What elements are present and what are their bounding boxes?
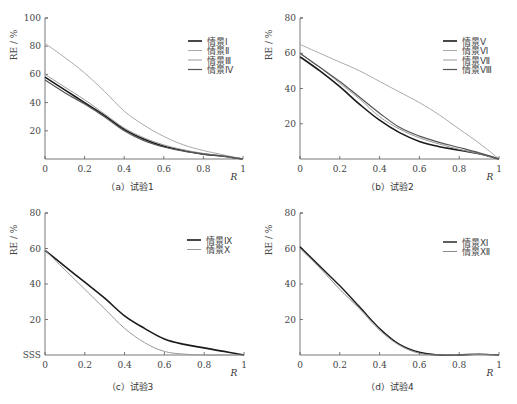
legend-label: 情景Ⅱ — [207, 45, 229, 56]
legend-label: 情景Ⅲ — [207, 55, 231, 66]
x-tick-label: 0.6 — [157, 164, 172, 174]
legend: 情景Ⅰ情景Ⅱ情景Ⅲ情景Ⅳ — [188, 36, 234, 76]
x-tick-label: 0.4 — [372, 360, 387, 370]
y-tick-label: 40 — [285, 279, 297, 289]
x-tick-label: 0.2 — [78, 360, 92, 370]
y-tick-label: 20 — [285, 315, 297, 325]
legend-label: 情景Ⅳ — [207, 64, 234, 75]
x-tick-label: 1 — [240, 164, 246, 174]
series-line-1 — [300, 247, 499, 356]
y-axis-label: RE / % — [264, 224, 274, 255]
x-tick-label: 0 — [297, 360, 303, 370]
series-line-4 — [45, 80, 243, 159]
chart-panel-c: SSS2040608000.20.40.60.81RE / %R（c）试验3情景… — [9, 208, 247, 392]
y-tick-label: 20 — [285, 119, 297, 129]
x-tick-label: 0.2 — [333, 360, 347, 370]
y-tick-label: 60 — [30, 244, 42, 254]
x-tick-label: 1 — [496, 164, 502, 174]
x-tick-label: 0.6 — [157, 360, 172, 370]
legend-label: 情景Ⅰ — [207, 36, 228, 47]
y-tick-label: 80 — [285, 13, 297, 23]
series-line-2 — [300, 249, 499, 356]
series-line-3 — [45, 74, 243, 159]
y-tick-label: 40 — [30, 279, 42, 289]
y-tick-label: 40 — [285, 84, 297, 94]
legend-label: 情景Ⅷ — [462, 64, 492, 75]
x-tick-label: 0.4 — [372, 164, 387, 174]
series-line-1 — [45, 250, 244, 355]
legend-label: 情景Ⅴ — [462, 36, 487, 47]
y-tick-label: 40 — [30, 98, 42, 108]
legend: 情景Ⅴ情景Ⅵ情景Ⅶ情景Ⅷ — [443, 36, 492, 76]
y-tick-label: 20 — [30, 315, 42, 325]
x-tick-label: 0.4 — [117, 164, 132, 174]
chart-panel-b: 2040608000.20.40.60.81RE / %R（b）试验2情景Ⅴ情景… — [264, 13, 502, 192]
x-tick-label: 0.8 — [196, 164, 211, 174]
y-axis-label: RE / % — [264, 29, 274, 60]
panel-caption: （b）试验2 — [366, 181, 413, 192]
y-tick-label: 60 — [30, 69, 42, 79]
x-axis-label: R — [486, 368, 494, 378]
chart-panel-d: 2040608000.20.40.60.81RE / %R（d）试验4情景Ⅺ情景… — [264, 208, 502, 392]
x-tick-label: 1 — [496, 360, 502, 370]
legend: 情景Ⅸ情景Ⅹ — [187, 235, 232, 256]
x-tick-label: 0 — [42, 164, 48, 174]
y-tick-label: SSS — [23, 350, 41, 360]
x-tick-label: 0.8 — [452, 360, 467, 370]
legend-label: 情景Ⅶ — [462, 55, 490, 66]
y-tick-label: 80 — [285, 208, 297, 218]
legend-label: 情景Ⅺ — [462, 237, 488, 248]
panel-caption: （a）试验1 — [106, 181, 153, 192]
legend-label: 情景Ⅹ — [206, 244, 230, 255]
y-tick-label: 80 — [30, 41, 42, 51]
y-tick-label: 20 — [30, 126, 42, 136]
panel-caption: （c）试验3 — [107, 381, 154, 392]
legend-label: 情景Ⅵ — [462, 45, 488, 56]
x-tick-label: 0.6 — [412, 164, 427, 174]
series-line-1 — [45, 77, 243, 159]
x-axis-label: R — [230, 172, 238, 182]
x-tick-label: 0.2 — [77, 164, 91, 174]
panel-caption: （d）试验4 — [366, 381, 414, 392]
y-tick-label: 60 — [285, 48, 297, 58]
chart-panel-a: 2040608010000.20.40.60.81RE / %R（a）试验1情景… — [9, 13, 246, 192]
legend-label: 情景Ⅸ — [206, 235, 232, 246]
legend-label: 情景Ⅻ — [462, 246, 490, 257]
x-tick-label: 0.2 — [333, 164, 347, 174]
x-tick-label: 0.6 — [412, 360, 427, 370]
y-axis-label: RE / % — [9, 224, 19, 255]
y-tick-label: 60 — [285, 244, 297, 254]
y-axis-label: RE / % — [9, 29, 19, 60]
x-axis-label: R — [486, 172, 494, 182]
figure-canvas: 2040608010000.20.40.60.81RE / %R（a）试验1情景… — [0, 0, 517, 404]
x-tick-label: 1 — [241, 360, 247, 370]
x-tick-label: 0 — [297, 164, 303, 174]
series-line-2 — [45, 250, 244, 355]
x-tick-label: 0.4 — [117, 360, 132, 370]
y-tick-label: 100 — [24, 13, 41, 23]
x-tick-label: 0.8 — [197, 360, 212, 370]
x-axis-label: R — [230, 368, 238, 378]
y-tick-label: 80 — [30, 208, 42, 218]
x-tick-label: 0 — [42, 360, 48, 370]
legend: 情景Ⅺ情景Ⅻ — [443, 237, 490, 258]
x-tick-label: 0.8 — [452, 164, 467, 174]
